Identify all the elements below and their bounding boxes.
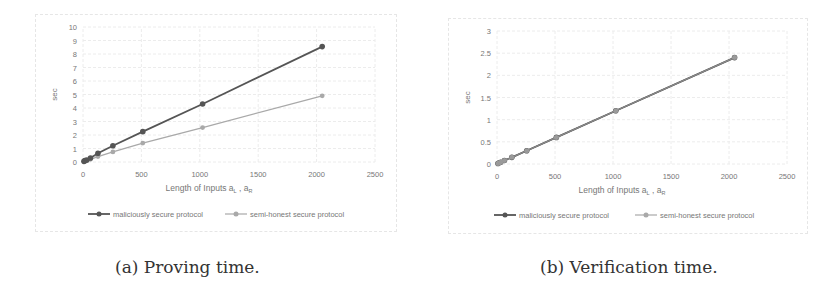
x-tick-label: 2000 — [721, 172, 738, 181]
x-tick-label: 0 — [495, 172, 499, 181]
y-tick-label: 1 — [487, 116, 491, 125]
x-axis-label: Length of Inputs aL , aR — [579, 185, 666, 196]
y-tick-label: 1.5 — [481, 94, 491, 103]
legend-item-malicious: maliciously secure protocol — [494, 211, 609, 220]
y-tick-label: 3 — [487, 27, 491, 36]
y-tick-label: 0 — [487, 160, 491, 169]
x-tick-label: 1500 — [663, 172, 680, 181]
svg-text:semi-honest secure protocol: semi-honest secure protocol — [660, 211, 755, 220]
x-tick-label: 1000 — [605, 172, 622, 181]
svg-text:maliciously secure protocol: maliciously secure protocol — [519, 211, 609, 220]
figure-caption: (b) Verification time. — [540, 257, 718, 277]
y-tick-label: 2.5 — [481, 49, 491, 58]
legend-item-semi-honest: semi-honest secure protocol — [635, 211, 755, 220]
x-tick-label: 2500 — [779, 172, 796, 181]
x-tick-label: 500 — [549, 172, 562, 181]
y-tick-label: 0.5 — [481, 138, 491, 147]
figure-caption: (a) Proving time. — [115, 257, 260, 277]
verification-time-chart: 00.511.522.5305001000150020002500secLeng… — [0, 0, 825, 240]
y-axis-label: sec — [463, 91, 472, 103]
y-tick-label: 2 — [487, 71, 491, 80]
